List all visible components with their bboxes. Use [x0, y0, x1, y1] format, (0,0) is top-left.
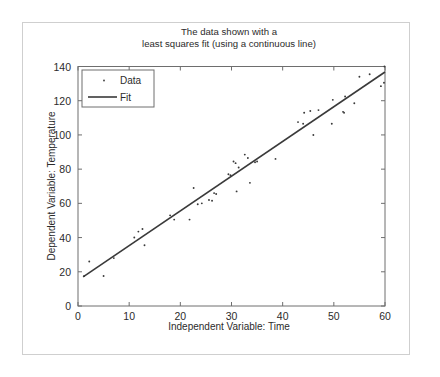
data-point	[227, 173, 229, 175]
data-point	[297, 121, 299, 123]
legend-box	[82, 70, 154, 107]
data-point	[249, 182, 251, 184]
data-point	[88, 261, 90, 263]
data-point	[215, 193, 217, 195]
data-point	[236, 190, 238, 192]
x-tick-label: 30	[226, 310, 238, 322]
data-point	[197, 203, 199, 205]
data-point	[137, 231, 139, 233]
x-axis-title: Independent Variable: Time	[168, 321, 290, 332]
chart-legend[interactable]: Data Fit	[82, 70, 154, 107]
legend-label-data: Data	[120, 75, 142, 86]
data-point	[312, 134, 314, 136]
data-point	[309, 110, 311, 112]
data-point	[353, 102, 355, 104]
data-point	[244, 154, 246, 156]
data-point	[173, 219, 175, 221]
y-tick-label: 20	[59, 266, 71, 278]
data-point	[369, 73, 371, 75]
x-tick-label: 20	[174, 310, 186, 322]
data-point	[193, 187, 195, 189]
data-point	[332, 99, 334, 101]
data-point	[383, 82, 385, 84]
data-point	[213, 192, 215, 194]
data-point	[208, 199, 210, 201]
data-point	[233, 160, 235, 162]
data-point	[343, 112, 345, 114]
legend-label-fit: Fit	[120, 92, 131, 103]
x-tick-label: 50	[328, 310, 340, 322]
data-point	[144, 244, 146, 246]
data-point	[230, 174, 232, 176]
x-tick-label: 0	[75, 310, 81, 322]
data-point	[169, 214, 171, 216]
x-tick-label: 10	[123, 310, 135, 322]
x-tick-label: 60	[379, 310, 391, 322]
data-point	[103, 275, 105, 277]
data-point	[302, 123, 304, 125]
y-tick-label: 80	[59, 163, 71, 175]
data-point	[235, 162, 237, 164]
chart-figure: The data shown with a least squares fit …	[0, 0, 440, 377]
data-point	[201, 202, 203, 204]
data-point	[211, 200, 213, 202]
data-point	[256, 160, 258, 162]
data-point	[238, 166, 240, 168]
data-point	[133, 237, 135, 239]
data-point	[247, 157, 249, 159]
data-point	[275, 158, 277, 160]
data-point	[344, 95, 346, 97]
data-point	[113, 257, 115, 259]
data-point	[142, 228, 144, 230]
chart-title-line-2: least squares fit (using a continuous li…	[142, 38, 316, 49]
y-tick-label: 140	[53, 61, 71, 73]
data-point	[384, 66, 386, 68]
data-point	[318, 109, 320, 111]
data-point	[83, 275, 85, 277]
x-tick-label: 40	[277, 310, 289, 322]
chart-title-line-1: The data shown with a	[181, 26, 278, 37]
y-tick-label: 120	[53, 95, 71, 107]
data-point	[189, 219, 191, 221]
data-point	[254, 161, 256, 163]
y-tick-label: 0	[65, 300, 71, 312]
legend-marker-data-icon	[103, 80, 105, 82]
data-point	[303, 112, 305, 114]
data-point	[358, 76, 360, 78]
y-tick-label: 60	[59, 197, 71, 209]
data-point	[380, 85, 382, 87]
y-tick-label: 100	[53, 129, 71, 141]
y-tick-label: 40	[59, 232, 71, 244]
chart-canvas: The data shown with a least squares fit …	[0, 0, 440, 377]
data-point	[331, 123, 333, 125]
